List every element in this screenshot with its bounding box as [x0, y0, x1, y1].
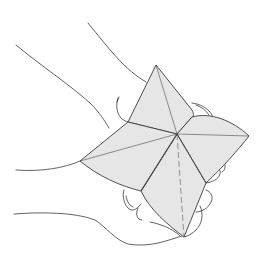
fortune-teller-illustration	[0, 0, 265, 256]
flap-top	[128, 65, 194, 134]
fortune-teller	[80, 65, 249, 237]
illustration-canvas	[0, 0, 265, 256]
